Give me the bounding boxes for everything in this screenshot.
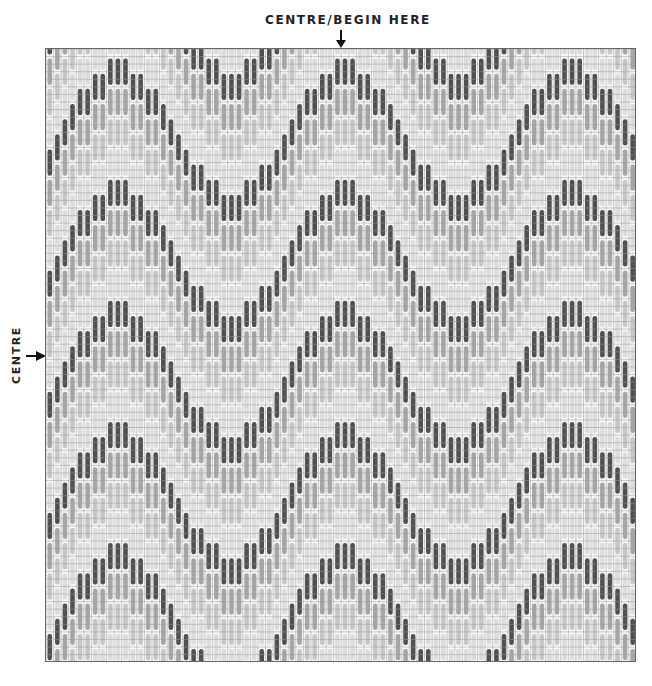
centre-begin-here-label: CENTRE/BEGIN HERE — [265, 13, 431, 27]
stitch-chart-grid — [45, 48, 636, 662]
down-arrow-icon — [336, 30, 346, 48]
centre-side-label: CENTRE — [8, 325, 24, 385]
centre-side-text: CENTRE — [10, 326, 23, 384]
right-arrow-icon — [26, 351, 46, 361]
bargello-pattern — [46, 49, 636, 662]
